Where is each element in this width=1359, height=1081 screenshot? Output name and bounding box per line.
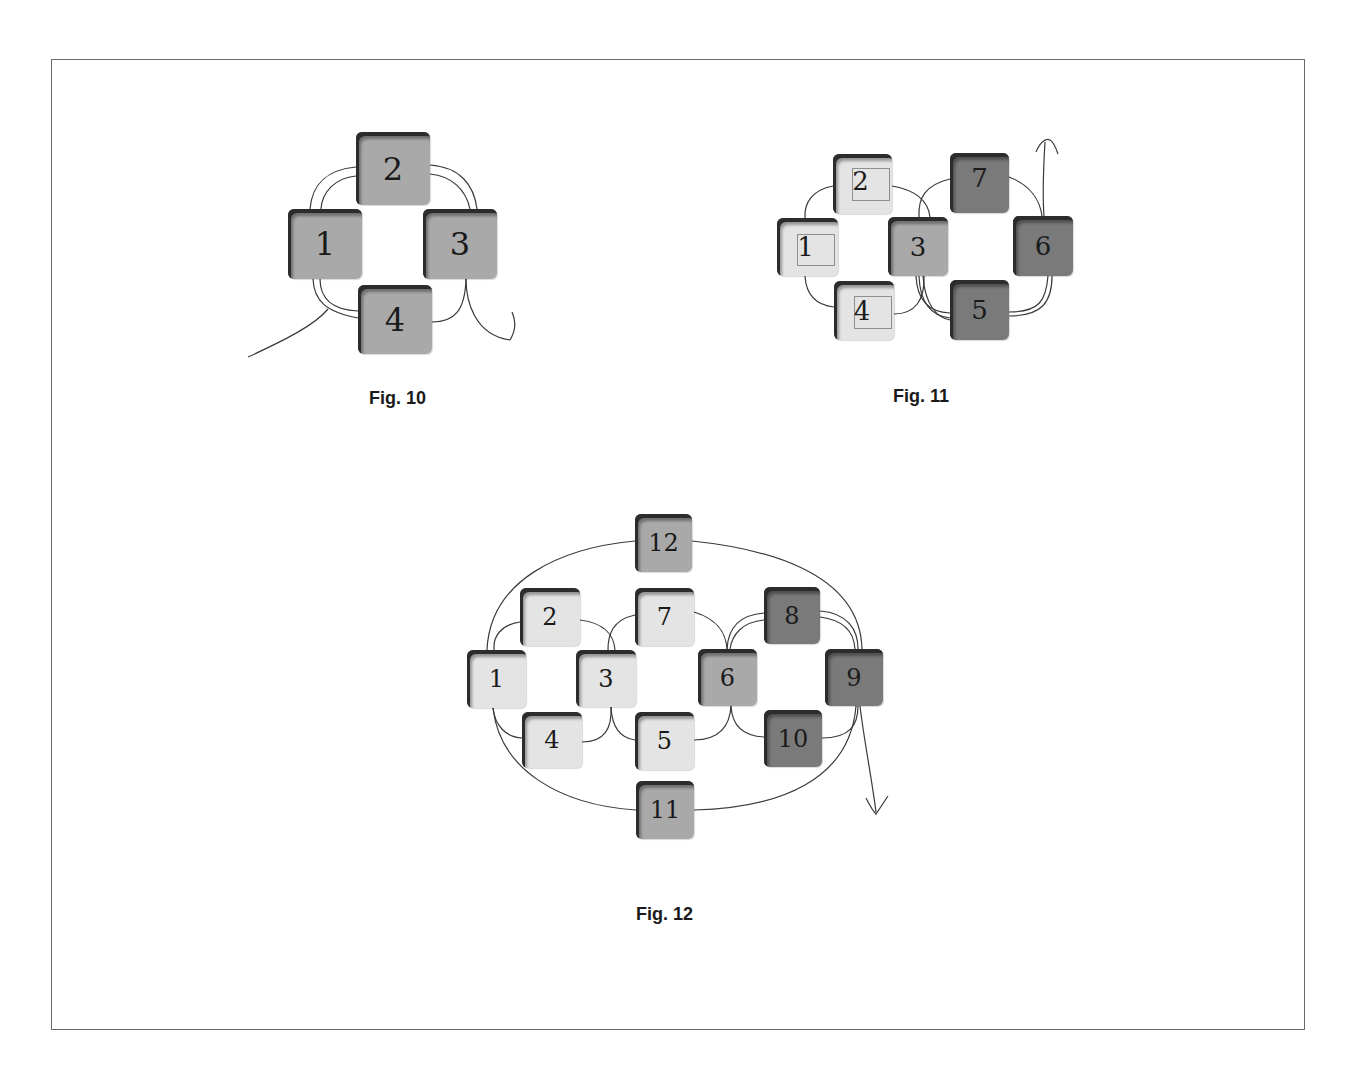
bead-tile: 2 (356, 132, 430, 205)
bead-tile: 5 (635, 712, 694, 770)
bead-tile: 1 (467, 650, 526, 708)
bead-tile: 1 (777, 218, 838, 276)
bead-number: 1 (797, 232, 814, 262)
bead-tile: 11 (636, 781, 694, 839)
bead-number: 6 (1035, 231, 1052, 261)
bead-tile: 9 (825, 649, 883, 706)
bead-number: 1 (315, 225, 335, 263)
bead-number: 7 (657, 603, 672, 631)
bead-number: 11 (650, 796, 681, 824)
bead-tile: 7 (635, 588, 694, 646)
bead-tile: 7 (950, 153, 1009, 213)
bead-tile: 2 (833, 154, 892, 214)
bead-number: 4 (385, 301, 405, 339)
bead-tile: 3 (423, 209, 497, 279)
bead-tile: 10 (764, 710, 822, 767)
figure-caption: Fig. 12 (636, 904, 693, 925)
bead-number: 9 (846, 664, 861, 692)
bead-tile: 1 (288, 209, 362, 279)
bead-number: 7 (971, 163, 988, 193)
bead-tile: 6 (698, 649, 757, 706)
bead-tile: 4 (834, 281, 894, 340)
bead-tile: 2 (520, 588, 580, 646)
bead-number: 3 (598, 665, 613, 693)
bead-number: 1 (489, 665, 504, 693)
bead-tile: 5 (950, 280, 1009, 340)
bead-number: 4 (854, 296, 871, 326)
bead-number: 2 (852, 166, 869, 196)
bead-number: 10 (778, 725, 809, 753)
bead-number: 6 (720, 664, 735, 692)
bead-number: 8 (784, 602, 799, 630)
figure-caption: Fig. 10 (369, 388, 426, 409)
bead-number: 12 (648, 529, 679, 557)
bead-tile: 3 (576, 650, 636, 707)
figure-caption: Fig. 11 (893, 386, 949, 407)
bead-number: 5 (657, 727, 672, 755)
bead-tile: 12 (635, 514, 692, 572)
bead-number: 5 (971, 295, 988, 325)
bead-tile: 8 (764, 587, 820, 644)
bead-number: 4 (544, 726, 559, 754)
bead-number: 2 (383, 150, 403, 188)
bead-tile: 3 (888, 217, 948, 276)
bead-number: 2 (542, 603, 557, 631)
bead-number: 3 (910, 232, 927, 262)
bead-number: 3 (450, 225, 470, 263)
bead-tile: 4 (358, 285, 432, 354)
bead-tile: 4 (522, 712, 582, 768)
bead-tile: 6 (1013, 216, 1073, 276)
